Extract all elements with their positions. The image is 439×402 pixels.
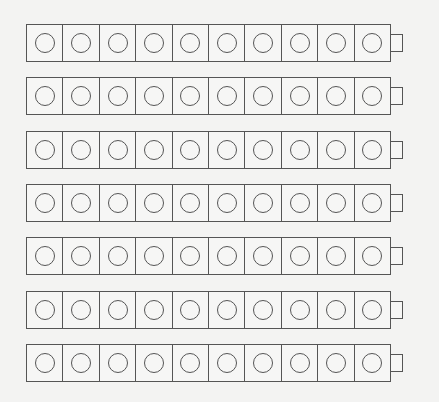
cube bbox=[135, 344, 173, 382]
cube bbox=[208, 184, 246, 222]
cube bbox=[317, 291, 355, 329]
circle-icon bbox=[326, 140, 346, 160]
cube bbox=[26, 237, 64, 275]
circle-icon bbox=[35, 300, 55, 320]
circle-icon bbox=[362, 193, 382, 213]
circle-icon bbox=[326, 246, 346, 266]
cube bbox=[244, 77, 282, 115]
circle-icon bbox=[217, 86, 237, 106]
cube bbox=[208, 291, 246, 329]
cube bbox=[281, 291, 319, 329]
cube-train-row bbox=[26, 77, 403, 115]
cube-train-row bbox=[26, 291, 403, 329]
cube bbox=[354, 237, 392, 275]
cube bbox=[354, 344, 392, 382]
circle-icon bbox=[71, 33, 91, 53]
cube-train-row bbox=[26, 24, 403, 62]
circle-icon bbox=[290, 193, 310, 213]
cube bbox=[172, 344, 210, 382]
circle-icon bbox=[326, 353, 346, 373]
cube bbox=[62, 131, 100, 169]
circle-icon bbox=[144, 246, 164, 266]
circle-icon bbox=[180, 353, 200, 373]
cube bbox=[172, 24, 210, 62]
cube bbox=[99, 291, 137, 329]
cube-train-row bbox=[26, 131, 403, 169]
cube bbox=[317, 77, 355, 115]
circle-icon bbox=[362, 353, 382, 373]
cube bbox=[244, 344, 282, 382]
circle-icon bbox=[35, 140, 55, 160]
cube bbox=[208, 24, 246, 62]
circle-icon bbox=[144, 140, 164, 160]
circle-icon bbox=[217, 193, 237, 213]
circle-icon bbox=[35, 86, 55, 106]
circle-icon bbox=[217, 33, 237, 53]
circle-icon bbox=[326, 193, 346, 213]
circle-icon bbox=[180, 140, 200, 160]
circle-icon bbox=[71, 353, 91, 373]
circle-icon bbox=[362, 246, 382, 266]
circle-icon bbox=[144, 300, 164, 320]
cube bbox=[281, 131, 319, 169]
cube bbox=[26, 131, 64, 169]
cube bbox=[208, 237, 246, 275]
cube bbox=[26, 24, 64, 62]
circle-icon bbox=[362, 33, 382, 53]
cube bbox=[208, 344, 246, 382]
cube bbox=[172, 131, 210, 169]
circle-icon bbox=[290, 140, 310, 160]
circle-icon bbox=[108, 353, 128, 373]
cube bbox=[244, 24, 282, 62]
cube bbox=[99, 77, 137, 115]
circle-icon bbox=[108, 300, 128, 320]
cube bbox=[26, 184, 64, 222]
cube bbox=[172, 184, 210, 222]
cube bbox=[26, 344, 64, 382]
circle-icon bbox=[180, 33, 200, 53]
circle-icon bbox=[71, 300, 91, 320]
circle-icon bbox=[108, 140, 128, 160]
circle-icon bbox=[217, 353, 237, 373]
cube bbox=[281, 237, 319, 275]
cube bbox=[281, 184, 319, 222]
circle-icon bbox=[144, 193, 164, 213]
cube bbox=[62, 184, 100, 222]
cube bbox=[99, 131, 137, 169]
circle-icon bbox=[35, 193, 55, 213]
circle-icon bbox=[290, 353, 310, 373]
cube bbox=[317, 237, 355, 275]
cube bbox=[135, 24, 173, 62]
cube bbox=[354, 77, 392, 115]
circle-icon bbox=[326, 300, 346, 320]
circle-icon bbox=[108, 86, 128, 106]
cube bbox=[99, 237, 137, 275]
cube bbox=[135, 291, 173, 329]
cube bbox=[317, 184, 355, 222]
tab-icon bbox=[391, 141, 403, 159]
circle-icon bbox=[144, 33, 164, 53]
circle-icon bbox=[108, 33, 128, 53]
tab-icon bbox=[391, 354, 403, 372]
circle-icon bbox=[180, 193, 200, 213]
cube bbox=[26, 77, 64, 115]
cube bbox=[135, 131, 173, 169]
cube bbox=[317, 24, 355, 62]
circle-icon bbox=[217, 246, 237, 266]
circle-icon bbox=[108, 246, 128, 266]
tab-icon bbox=[391, 247, 403, 265]
circle-icon bbox=[362, 300, 382, 320]
circle-icon bbox=[35, 246, 55, 266]
circle-icon bbox=[253, 193, 273, 213]
cube bbox=[354, 24, 392, 62]
circle-icon bbox=[253, 86, 273, 106]
circle-icon bbox=[144, 86, 164, 106]
circle-icon bbox=[217, 140, 237, 160]
cube bbox=[281, 24, 319, 62]
cube bbox=[135, 184, 173, 222]
circle-icon bbox=[290, 246, 310, 266]
cube bbox=[62, 291, 100, 329]
cube-train-row bbox=[26, 237, 403, 275]
cube bbox=[172, 237, 210, 275]
cube bbox=[208, 131, 246, 169]
